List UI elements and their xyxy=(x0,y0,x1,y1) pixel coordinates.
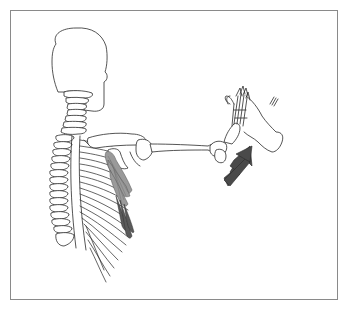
motion-marks xyxy=(270,97,278,106)
hand-bones xyxy=(224,86,250,144)
arm-bones xyxy=(150,141,227,163)
cervical-spine xyxy=(61,91,93,135)
anatomy-illustration xyxy=(0,0,344,312)
shoulder-girdle xyxy=(87,133,152,169)
force-arrow xyxy=(224,146,252,186)
